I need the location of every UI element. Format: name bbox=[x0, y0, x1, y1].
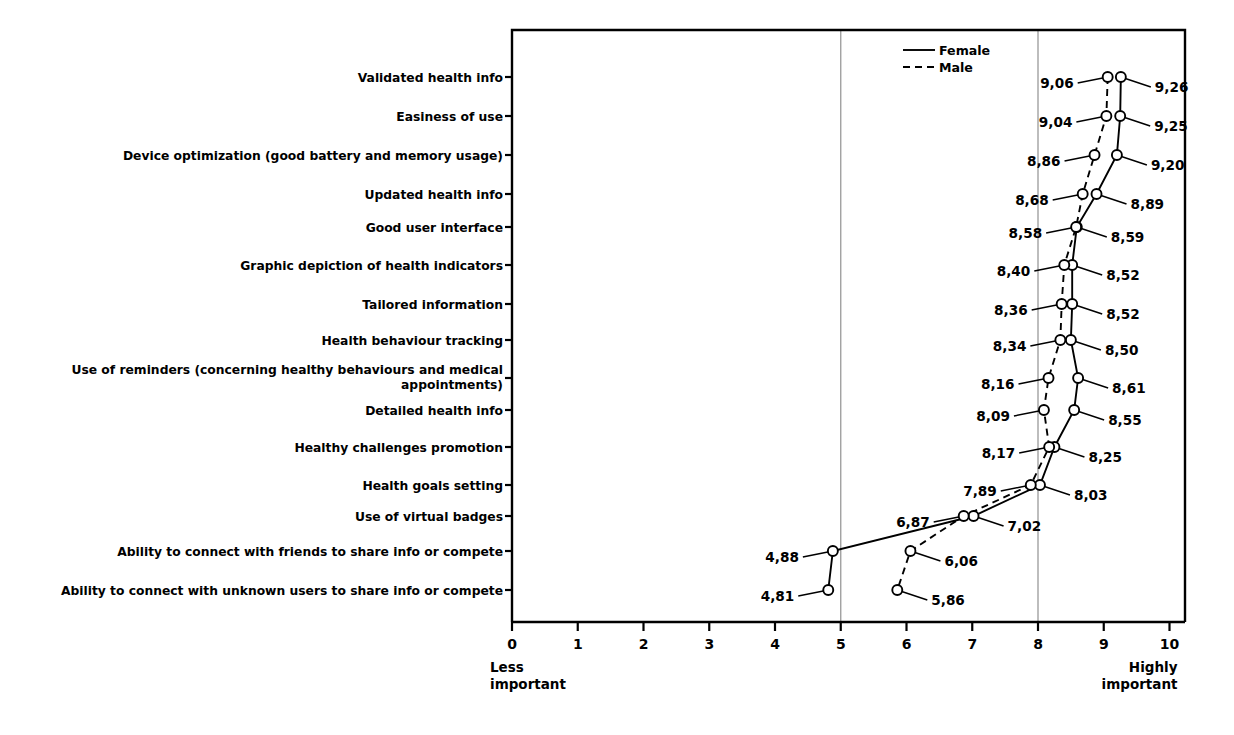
data-point-label: 8,61 bbox=[1112, 380, 1146, 396]
x-tick-label: 2 bbox=[639, 636, 649, 652]
data-point-marker bbox=[1069, 405, 1079, 415]
data-point-label: 4,81 bbox=[761, 588, 795, 604]
data-point-label: 6,87 bbox=[896, 514, 930, 530]
category-label: Use of virtual badges bbox=[355, 510, 503, 524]
data-point-label: 8,34 bbox=[993, 338, 1027, 354]
data-point-label: 8,52 bbox=[1106, 306, 1140, 322]
x-tick-label: 4 bbox=[770, 636, 780, 652]
data-point-marker bbox=[1067, 299, 1077, 309]
category-label: Good user interface bbox=[366, 221, 503, 235]
category-label: Health behaviour tracking bbox=[321, 334, 503, 348]
data-point-label: 5,86 bbox=[931, 592, 965, 608]
data-point-label: 9,20 bbox=[1151, 157, 1185, 173]
x-tick-label: 0 bbox=[507, 636, 517, 652]
data-point-marker bbox=[828, 546, 838, 556]
x-tick-label: 7 bbox=[967, 636, 977, 652]
data-point-marker bbox=[1103, 72, 1113, 82]
data-point-label: 8,68 bbox=[1015, 192, 1049, 208]
data-point-marker bbox=[1115, 111, 1125, 121]
data-point-label: 8,40 bbox=[997, 263, 1031, 279]
category-label: Easiness of use bbox=[396, 110, 503, 124]
axis-high-label-line: Highly bbox=[1129, 659, 1178, 675]
data-point-marker bbox=[969, 511, 979, 521]
x-tick-label: 9 bbox=[1099, 636, 1109, 652]
category-label: Updated health info bbox=[365, 188, 503, 202]
x-tick-label: 6 bbox=[902, 636, 912, 652]
legend-label-female: Female bbox=[939, 43, 990, 58]
data-point-label: 8,09 bbox=[976, 408, 1010, 424]
data-point-label: 8,50 bbox=[1105, 342, 1139, 358]
data-point-marker bbox=[823, 585, 833, 595]
data-point-label: 8,86 bbox=[1027, 153, 1061, 169]
data-point-marker bbox=[1055, 335, 1065, 345]
data-point-marker bbox=[1026, 480, 1036, 490]
data-point-marker bbox=[1101, 111, 1111, 121]
data-point-label: 7,89 bbox=[963, 483, 997, 499]
data-point-marker bbox=[1116, 72, 1126, 82]
data-point-label: 8,03 bbox=[1074, 487, 1108, 503]
data-point-marker bbox=[892, 585, 902, 595]
data-point-label: 8,25 bbox=[1088, 449, 1122, 465]
legend-label-male: Male bbox=[939, 60, 973, 75]
axis-high-label-line: important bbox=[1102, 676, 1178, 692]
line-chart-svg: Validated health infoEasiness of useDevi… bbox=[0, 0, 1234, 735]
data-point-marker bbox=[1078, 189, 1088, 199]
axis-low-label-line: important bbox=[490, 676, 566, 692]
chart-figure: Validated health infoEasiness of useDevi… bbox=[0, 0, 1234, 735]
data-point-label: 8,52 bbox=[1106, 267, 1140, 283]
data-point-label: 9,06 bbox=[1040, 75, 1074, 91]
data-point-label: 4,88 bbox=[765, 549, 799, 565]
data-point-marker bbox=[905, 546, 915, 556]
data-point-label: 7,02 bbox=[1008, 518, 1042, 534]
data-point-marker bbox=[1057, 299, 1067, 309]
data-point-marker bbox=[1090, 150, 1100, 160]
x-tick-label: 10 bbox=[1160, 636, 1180, 652]
data-point-label: 6,06 bbox=[944, 553, 978, 569]
data-point-marker bbox=[1039, 405, 1049, 415]
x-tick-label: 5 bbox=[836, 636, 846, 652]
category-label-line: Use of reminders (concerning healthy beh… bbox=[71, 363, 503, 377]
data-point-label: 9,25 bbox=[1154, 118, 1188, 134]
category-label: Detailed health info bbox=[365, 404, 503, 418]
data-point-marker bbox=[1112, 150, 1122, 160]
x-tick-label: 3 bbox=[704, 636, 714, 652]
category-label: Ability to connect with friends to share… bbox=[117, 545, 503, 559]
category-label: Tailored information bbox=[362, 298, 503, 312]
data-point-marker bbox=[1044, 442, 1054, 452]
data-point-label: 8,89 bbox=[1131, 196, 1165, 212]
category-label: Healthy challenges promotion bbox=[294, 441, 503, 455]
data-point-marker bbox=[1073, 373, 1083, 383]
x-tick-label: 1 bbox=[573, 636, 583, 652]
category-label: Ability to connect with unknown users to… bbox=[61, 584, 503, 598]
data-point-label: 8,58 bbox=[1009, 225, 1043, 241]
category-label: Device optimization (good battery and me… bbox=[123, 149, 503, 163]
data-point-label: 9,04 bbox=[1039, 114, 1073, 130]
category-label-line: appointments) bbox=[401, 378, 503, 392]
x-tick-label: 8 bbox=[1033, 636, 1043, 652]
category-label: Health goals setting bbox=[362, 479, 503, 493]
data-point-marker bbox=[1044, 373, 1054, 383]
data-point-marker bbox=[1092, 189, 1102, 199]
data-point-label: 8,36 bbox=[994, 302, 1028, 318]
data-point-marker bbox=[1059, 260, 1069, 270]
category-label: Graphic depiction of health indicators bbox=[240, 259, 503, 273]
data-point-label: 8,55 bbox=[1108, 412, 1142, 428]
data-point-marker bbox=[1066, 335, 1076, 345]
data-point-marker bbox=[1071, 222, 1081, 232]
axis-low-label-line: Less bbox=[490, 659, 524, 675]
data-point-marker bbox=[959, 511, 969, 521]
data-point-label: 9,26 bbox=[1155, 79, 1189, 95]
data-point-label: 8,17 bbox=[982, 445, 1016, 461]
data-point-label: 8,59 bbox=[1111, 229, 1145, 245]
data-point-label: 8,16 bbox=[981, 376, 1015, 392]
category-label: Validated health info bbox=[358, 71, 503, 85]
